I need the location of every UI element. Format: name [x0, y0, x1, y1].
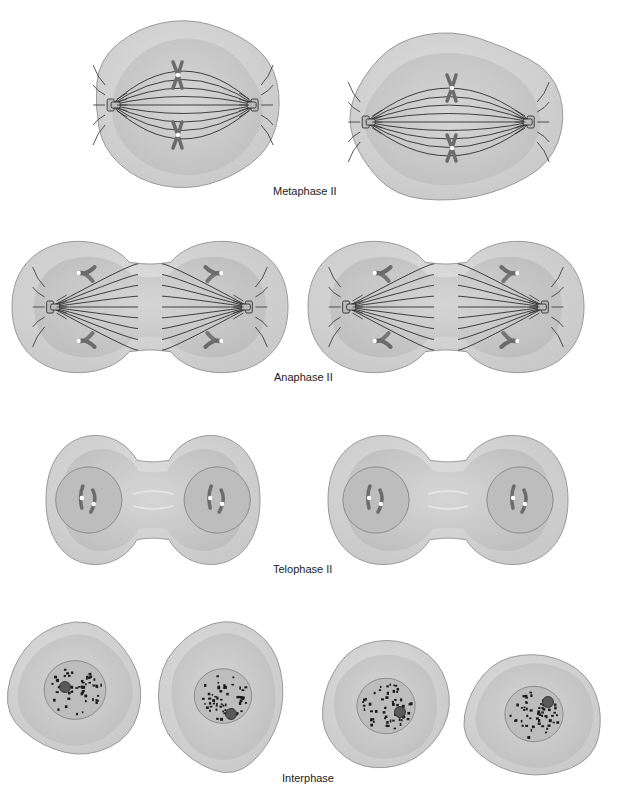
metaphase-ii-cell-2: [348, 33, 563, 200]
interphase-cell-3: [322, 640, 449, 767]
stage-label-telophase-ii: Telophase II: [273, 563, 332, 575]
interphase-cell-2: [158, 622, 282, 773]
metaphase-ii-cell-1: [93, 21, 279, 188]
diagram-illustration: [0, 0, 617, 806]
telophase-ii-cell-1: [46, 435, 260, 564]
stage-label-metaphase-ii: Metaphase II: [273, 185, 337, 197]
stage-label-anaphase-ii: Anaphase II: [274, 371, 333, 383]
stage-label-interphase: Interphase: [282, 772, 334, 784]
anaphase-ii-cell-1: [12, 241, 288, 372]
telophase-ii-cell-2: [328, 435, 568, 564]
anaphase-ii-cell-2: [308, 241, 584, 372]
interphase-cell-4: [464, 655, 600, 775]
meiosis-ii-diagram: Metaphase II Anaphase II Telophase II In…: [0, 0, 617, 806]
interphase-cell-1: [7, 622, 140, 754]
